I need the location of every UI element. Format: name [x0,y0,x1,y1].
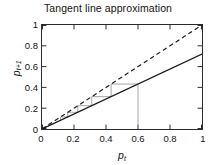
x-axis-label-subscript: t [124,155,126,162]
x-tick-label-1: 0.2 [58,134,88,144]
x-axis-label: pt [41,149,203,162]
x-axis-tick-labels: 0 0.2 0.4 0.6 0.8 1 [0,0,216,165]
x-tick-label-5: 1 [188,134,216,144]
x-tick-label-0: 0 [26,134,56,144]
chart-figure: Tangent line approximation 1 0.8 0.6 0.4… [0,0,216,165]
x-tick-label-3: 0.6 [123,134,153,144]
x-tick-label-4: 0.8 [155,134,185,144]
x-tick-label-2: 0.4 [91,134,121,144]
